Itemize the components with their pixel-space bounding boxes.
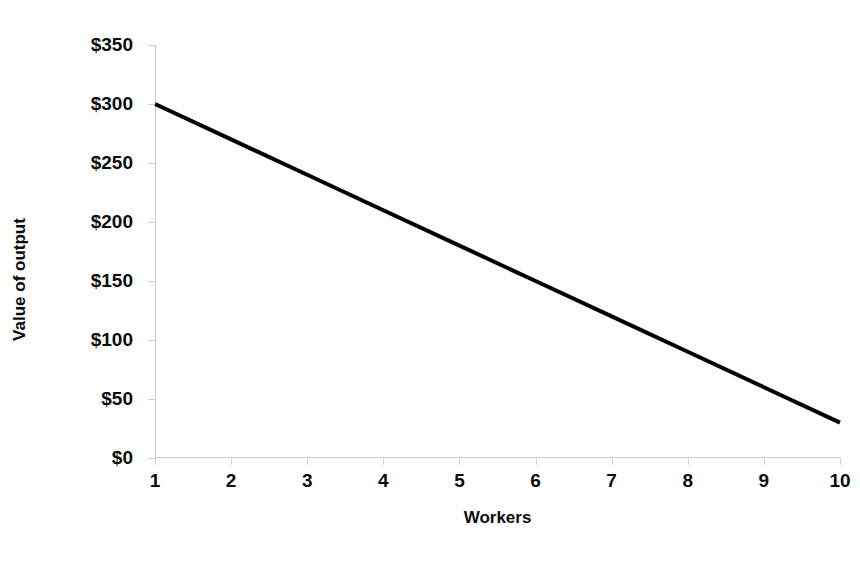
y-axis-tick-label: $150: [48, 270, 133, 292]
x-axis-tick-label: 5: [454, 470, 465, 492]
x-axis-tick: [155, 458, 156, 465]
y-axis-tick: [148, 399, 155, 400]
y-axis-tick-label: $350: [48, 34, 133, 56]
y-axis-tick-label: $200: [48, 211, 133, 233]
x-axis-tick: [688, 458, 689, 465]
y-axis-tick-label: $50: [48, 388, 133, 410]
x-axis-tick-label: 1: [150, 470, 161, 492]
plot-area: [155, 45, 840, 458]
y-axis-tick: [148, 340, 155, 341]
x-axis-tick-label: 8: [682, 470, 693, 492]
x-axis-tick-label: 10: [829, 470, 850, 492]
y-axis-tick-label: $0: [48, 447, 133, 469]
y-axis-tick-label: $100: [48, 329, 133, 351]
y-axis-tick: [148, 163, 155, 164]
x-axis-tick: [612, 458, 613, 465]
y-axis-tick-labels: $0$50$100$150$200$250$300$350: [48, 0, 133, 569]
x-axis-tick: [459, 458, 460, 465]
x-axis-tick-label: 3: [302, 470, 313, 492]
data-series-line: [155, 104, 840, 423]
y-axis-title: Value of output: [0, 0, 40, 569]
y-axis-tick: [148, 222, 155, 223]
x-axis-tick-label: 9: [759, 470, 770, 492]
x-axis-tick: [840, 458, 841, 465]
y-axis-tick-label: $250: [48, 152, 133, 174]
y-axis-tick: [148, 104, 155, 105]
x-axis-title: Workers: [155, 508, 840, 528]
x-axis-tick: [231, 458, 232, 465]
x-axis-tick-label: 2: [226, 470, 237, 492]
line-chart: Value of output $0$50$100$150$200$250$30…: [0, 0, 860, 569]
y-axis-tick: [148, 45, 155, 46]
y-axis-tick-label: $300: [48, 93, 133, 115]
x-axis-tick: [764, 458, 765, 465]
y-axis-tick: [148, 458, 155, 459]
x-axis-tick-label: 4: [378, 470, 389, 492]
y-axis-title-label: Value of output: [10, 218, 30, 341]
x-axis-tick: [536, 458, 537, 465]
series-line-value-of-output: [155, 45, 840, 458]
x-axis-tick-label: 6: [530, 470, 541, 492]
x-axis-tick: [383, 458, 384, 465]
y-axis-tick: [148, 281, 155, 282]
x-axis-tick: [307, 458, 308, 465]
x-axis-tick-labels: 12345678910: [155, 470, 840, 500]
x-axis-tick-label: 7: [606, 470, 617, 492]
